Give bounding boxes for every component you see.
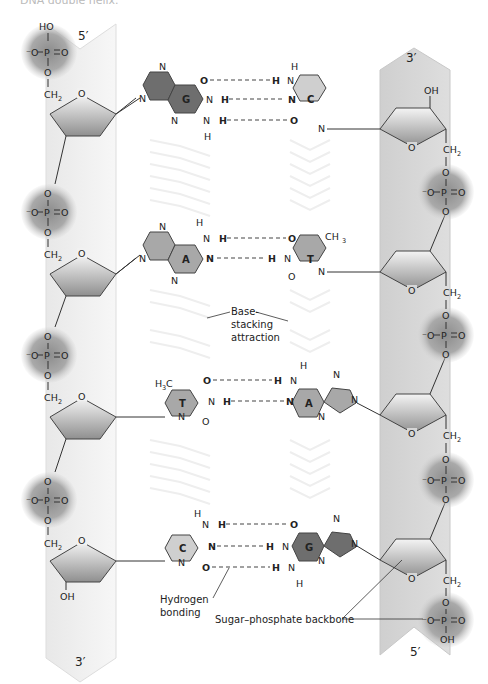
svg-text:CH: CH [443, 287, 457, 298]
svg-text:O: O [288, 271, 295, 282]
svg-text:N: N [288, 562, 295, 573]
guanine-base-2: O H N G N N N H N H [266, 513, 358, 589]
svg-text:2: 2 [457, 436, 461, 444]
svg-text:O: O [203, 375, 211, 386]
adenine-base: N N N A H N H N [139, 217, 227, 286]
base-pair-1-g-c: N N N G O N H N H H H N H N C N O [116, 61, 326, 142]
svg-text:N: N [288, 94, 296, 105]
base-pair-4-c-g: H N H C N N O O H N G N N N H N H [165, 508, 358, 589]
adenine-base-2: H H N N A N N N [274, 360, 358, 422]
svg-text:CH: CH [44, 538, 58, 549]
dna-double-helix-diagram: 5′ 3′ 3′ 5′ HO ⁻O P O O [0, 0, 488, 684]
svg-text:2: 2 [457, 581, 461, 589]
left-strand-5prime-label: 5′ [78, 29, 89, 43]
svg-text:O: O [458, 475, 465, 486]
svg-text:O: O [458, 615, 465, 626]
base-pair-2-a-t: N N N A H N H N O CH 3 H N T N O [116, 217, 346, 286]
svg-text:N: N [203, 233, 210, 244]
svg-text:N: N [208, 396, 215, 407]
svg-text:A: A [305, 398, 313, 409]
svg-text:N: N [159, 221, 166, 232]
svg-text:O: O [44, 476, 51, 487]
svg-text:N: N [206, 253, 214, 264]
cytosine-base-1: H N H N C N O [272, 61, 326, 134]
svg-text:⁻O: ⁻O [26, 207, 39, 218]
svg-text:H: H [274, 375, 282, 386]
svg-text:CH: CH [443, 430, 457, 441]
svg-text:O: O [408, 573, 415, 584]
svg-text:O: O [442, 494, 449, 505]
svg-text:N: N [206, 94, 213, 105]
base-stacking-label: Base- stacking attraction [207, 306, 288, 343]
svg-text:2: 2 [58, 398, 62, 406]
svg-text:N: N [202, 519, 209, 530]
svg-text:⁻O: ⁻O [422, 475, 435, 486]
svg-text:P: P [44, 47, 50, 58]
svg-text:OH: OH [424, 85, 439, 96]
svg-text:A: A [182, 254, 190, 265]
svg-text:H: H [266, 541, 274, 552]
svg-text:2: 2 [457, 150, 461, 158]
svg-text:O: O [458, 330, 465, 341]
svg-text:O: O [442, 349, 449, 360]
svg-text:O: O [44, 67, 51, 78]
svg-text:2: 2 [58, 544, 62, 552]
svg-text:P: P [441, 330, 447, 341]
svg-text:2: 2 [457, 293, 461, 301]
svg-text:N: N [333, 513, 340, 524]
svg-text:Hydrogen: Hydrogen [160, 594, 209, 605]
svg-text:N: N [287, 75, 294, 86]
svg-text:O: O [408, 428, 415, 439]
right-strand-5prime-label: 5′ [410, 645, 421, 659]
svg-text:CH: CH [44, 392, 58, 403]
svg-text:H: H [204, 131, 211, 142]
svg-text:O: O [61, 350, 68, 361]
svg-text:2: 2 [58, 255, 62, 263]
svg-text:H: H [219, 115, 227, 126]
svg-text:P: P [441, 475, 447, 486]
svg-text:O: O [202, 416, 209, 427]
left-phosphate-2: O ⁻O P O O [21, 184, 77, 240]
svg-text:N: N [171, 115, 178, 126]
svg-text:O: O [202, 562, 210, 573]
svg-text:O: O [442, 597, 449, 608]
guanine-base-1: N N N G O N H N H H [139, 61, 229, 142]
svg-text:C: C [179, 543, 186, 554]
svg-text:O: O [78, 248, 85, 259]
svg-text:H: H [218, 519, 226, 530]
svg-text:stacking: stacking [231, 319, 273, 330]
thymine-base-2: H 3 C T O N H N O [155, 375, 231, 427]
left-phosphate-1: HO ⁻O P O O [21, 21, 77, 80]
svg-text:H: H [296, 578, 303, 589]
svg-text:O: O [442, 167, 449, 178]
svg-text:CH: CH [443, 144, 457, 155]
base-pair-3-t-a: H 3 C T O N H N O H H N N A N N N [155, 360, 358, 427]
svg-text:O: O [200, 75, 208, 86]
svg-text:⁻O: ⁻O [26, 350, 39, 361]
svg-text:⁻O: ⁻O [26, 47, 39, 58]
right-strand-3prime-label: 3′ [406, 51, 417, 65]
svg-text:N: N [351, 394, 358, 405]
left-phosphate-3: O ⁻O P O O [21, 327, 77, 383]
svg-text:O: O [288, 233, 296, 244]
svg-text:CH: CH [325, 231, 339, 242]
svg-text:O: O [290, 115, 298, 126]
svg-text:O: O [78, 88, 85, 99]
svg-text:CH: CH [443, 575, 457, 586]
svg-text:O: O [408, 142, 415, 153]
left-strand-3prime-label: 3′ [75, 655, 86, 669]
svg-text:T: T [307, 254, 314, 265]
svg-text:N: N [290, 375, 297, 386]
svg-text:O: O [44, 331, 51, 342]
svg-text:O: O [44, 188, 51, 199]
svg-text:2: 2 [58, 95, 62, 103]
svg-text:N: N [286, 396, 294, 407]
svg-text:C: C [307, 94, 314, 105]
svg-text:O: O [61, 207, 68, 218]
svg-text:G: G [305, 542, 313, 553]
cytosine-base-2: H N H C N N O [165, 508, 226, 573]
svg-text:T: T [179, 398, 186, 409]
svg-text:bonding: bonding [160, 607, 201, 618]
svg-text:O: O [44, 227, 51, 238]
svg-text:N: N [139, 253, 146, 264]
